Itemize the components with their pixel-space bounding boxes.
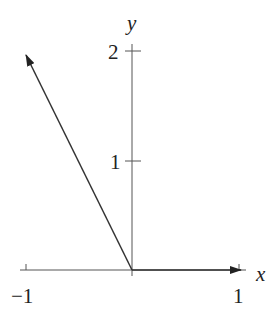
y-tick-label-1: 1: [110, 150, 121, 174]
x-tick-label-neg1: −1: [11, 284, 33, 308]
x-axis-label: x: [255, 262, 266, 286]
vector-diagram: y x 2 1 −1 1: [0, 0, 274, 323]
y-axis-label: y: [125, 11, 137, 35]
y-tick-label-2: 2: [108, 40, 119, 64]
diagram-canvas: y x 2 1 −1 1: [0, 0, 274, 323]
x-tick-label-pos1: 1: [233, 284, 244, 308]
